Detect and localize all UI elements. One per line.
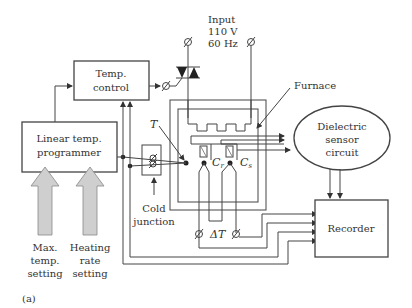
furnace-outer-wall — [170, 100, 266, 210]
max-temp-label-1: Max. — [32, 242, 57, 253]
cold-junction-label-1: Cold — [142, 203, 166, 214]
heater-winding — [188, 100, 251, 131]
delta-t-terminal-left-icon — [195, 229, 203, 239]
max-temp-label-2: temp. — [31, 255, 60, 266]
recorder-block: Recorder — [315, 200, 388, 257]
input-label-2: 110 V — [208, 26, 238, 37]
linear-programmer-block: Linear temp. programmer — [22, 122, 117, 172]
cs-label: Cs — [240, 156, 252, 170]
sensor-label-2: sensor — [325, 134, 359, 145]
t-label: T — [150, 118, 159, 131]
programmer-label-2: programmer — [37, 147, 101, 158]
max-temp-label-3: setting — [27, 268, 63, 279]
cold-junction-label-2: junction — [132, 216, 175, 227]
temp-control-label-1: Temp. — [96, 68, 127, 79]
cold-junction-terminal-icon — [149, 154, 157, 168]
programmer-label-1: Linear temp. — [36, 133, 101, 144]
cr-label: Cr — [212, 156, 224, 170]
dtg-apparatus-diagram: Temp. control Linear temp. programmer Ma… — [0, 0, 412, 308]
sensor-label-3: circuit — [326, 147, 359, 158]
delta-t-terminal-right-icon — [232, 229, 240, 239]
input-terminal-right-icon — [247, 37, 255, 47]
gate-terminal-icon — [162, 81, 170, 91]
programmer-to-control-line — [55, 86, 72, 122]
input-label-1: Input — [208, 14, 235, 25]
input-terminal-left-icon — [184, 37, 192, 47]
furnace-label: Furnace — [294, 80, 336, 91]
sensor-label-1: Dielectric — [317, 121, 367, 132]
heating-rate-label-1: Heating — [70, 242, 111, 253]
input-label-3: 60 Hz — [208, 38, 238, 49]
recorder-label: Recorder — [328, 223, 375, 234]
delta-t-label: ΔT — [209, 228, 227, 241]
heating-rate-setting-arrow-icon — [76, 167, 104, 235]
dielectric-sensor-block: Dielectric sensor circuit — [294, 106, 390, 170]
heating-rate-label-2: rate — [80, 255, 101, 266]
figure-label: (a) — [22, 293, 36, 304]
max-temp-setting-arrow-icon — [31, 167, 59, 235]
temp-control-label-2: control — [93, 82, 129, 93]
temp-control-block: Temp. control — [74, 61, 149, 100]
heating-rate-label-3: setting — [72, 268, 108, 279]
